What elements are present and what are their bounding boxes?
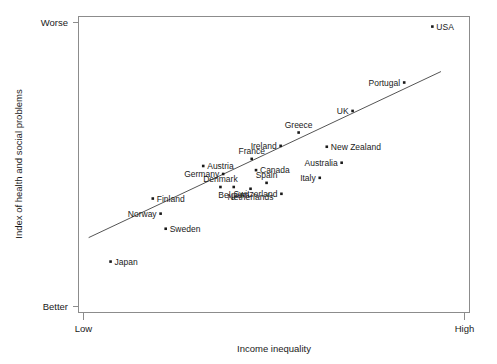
data-point: Japan bbox=[109, 257, 138, 267]
data-point-marker bbox=[280, 193, 283, 196]
data-point-label: New Zealand bbox=[331, 142, 381, 152]
data-point: UK bbox=[337, 106, 354, 116]
data-point-label: Norway bbox=[128, 209, 158, 219]
data-point-marker bbox=[151, 197, 154, 200]
data-point-marker bbox=[279, 145, 282, 148]
data-point-marker bbox=[318, 177, 321, 180]
data-point-marker bbox=[202, 165, 205, 168]
x-axis-title: Income inequality bbox=[237, 343, 311, 354]
data-point-marker bbox=[403, 81, 406, 84]
data-point-marker bbox=[249, 187, 252, 190]
data-point-marker bbox=[250, 158, 253, 161]
data-point-marker bbox=[265, 182, 268, 185]
data-point-marker bbox=[340, 161, 343, 164]
data-point-label: Australia bbox=[305, 158, 338, 168]
data-point-label: Portugal bbox=[369, 78, 401, 88]
data-point-label: USA bbox=[436, 22, 454, 32]
data-point: Finland bbox=[151, 194, 184, 204]
data-point-marker bbox=[164, 227, 167, 230]
data-point: Greece bbox=[285, 120, 313, 134]
x-tick-label-high: High bbox=[455, 323, 475, 334]
y-tick-label-better: Better bbox=[43, 301, 68, 312]
y-tick-label-worse: Worse bbox=[41, 17, 68, 28]
data-point: Portugal bbox=[369, 78, 406, 88]
plot-canvas: Worse Better Low High Income inequality … bbox=[0, 0, 497, 364]
data-point-label: Spain bbox=[256, 170, 278, 180]
data-point: Norway bbox=[128, 209, 162, 219]
data-point-label: Japan bbox=[115, 257, 138, 267]
data-point-marker bbox=[351, 110, 354, 113]
data-point-marker bbox=[431, 25, 434, 28]
data-points-layer: USAPortugalUKGreeceNew ZealandIrelandAus… bbox=[109, 22, 454, 267]
data-point-marker bbox=[297, 131, 300, 134]
data-point: Australia bbox=[305, 158, 343, 168]
data-point: Spain bbox=[256, 170, 278, 184]
data-point-label: UK bbox=[337, 106, 349, 116]
data-point-marker bbox=[159, 212, 162, 215]
data-point: Sweden bbox=[164, 224, 200, 234]
data-point-label: Sweden bbox=[170, 224, 201, 234]
data-point-label: Netherlands bbox=[228, 192, 274, 202]
data-point-marker bbox=[325, 145, 328, 148]
y-axis-title: Index of health and social problems bbox=[13, 89, 24, 239]
data-point-label: Finland bbox=[157, 194, 185, 204]
x-tick-label-low: Low bbox=[75, 323, 93, 334]
data-point-marker bbox=[219, 186, 222, 189]
data-point: France bbox=[238, 146, 265, 160]
data-point-label: Greece bbox=[285, 120, 313, 130]
data-point-marker bbox=[109, 260, 112, 263]
data-point-label: Italy bbox=[300, 173, 316, 183]
data-point: USA bbox=[431, 22, 454, 32]
data-point-label: Denmark bbox=[203, 174, 238, 184]
scatter-plot-figure: Worse Better Low High Income inequality … bbox=[0, 0, 497, 364]
data-point: Italy bbox=[300, 173, 321, 183]
data-point-label: France bbox=[238, 146, 265, 156]
data-point: New Zealand bbox=[325, 142, 381, 152]
